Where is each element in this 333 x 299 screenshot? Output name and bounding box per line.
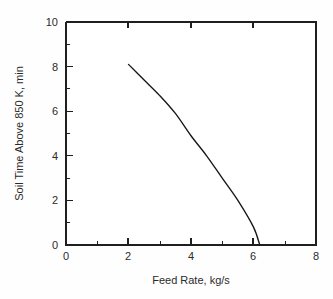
- chart-figure: 0 2 4 6 8 0 2 4 6 8 10 Feed Rate, kg/s S…: [0, 0, 333, 299]
- y-tick-label-4: 4: [52, 150, 58, 162]
- x-axis-tick-labels: 0 2 4 6 8: [63, 250, 319, 262]
- y-axis-title: Soil Time Above 850 K, min: [13, 66, 25, 201]
- y-tick-label-10: 10: [46, 16, 58, 28]
- x-tick-label-2: 2: [125, 250, 131, 262]
- x-tick-label-4: 4: [188, 250, 194, 262]
- y-tick-label-0: 0: [52, 239, 58, 251]
- y-axis-tick-labels: 0 2 4 6 8 10: [46, 16, 58, 251]
- x-tick-label-6: 6: [250, 250, 256, 262]
- x-tick-label-0: 0: [63, 250, 69, 262]
- plot-area-background: [66, 22, 316, 245]
- x-tick-label-8: 8: [313, 250, 319, 262]
- line-chart: 0 2 4 6 8 0 2 4 6 8 10 Feed Rate, kg/s S…: [0, 0, 333, 299]
- y-tick-label-8: 8: [52, 61, 58, 73]
- x-axis-title: Feed Rate, kg/s: [152, 274, 230, 286]
- y-tick-label-2: 2: [52, 194, 58, 206]
- y-tick-label-6: 6: [52, 105, 58, 117]
